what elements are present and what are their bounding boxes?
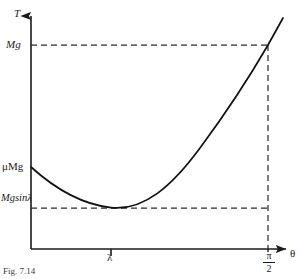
x-tick-label-lambda: λ [107, 252, 112, 263]
fraction-denominator: 2 [262, 264, 276, 275]
y-axis-label: T [14, 8, 20, 19]
figure-caption: Fig. 7.14 [3, 266, 35, 276]
tension-angle-plot [0, 0, 303, 279]
x-axis-label: θ [290, 248, 295, 259]
y-tick-label-mg-sin-lambda: Mgsinλ [1, 193, 32, 204]
physics-figure: T θ Mg μMg Mgsinλ λ π 2 Fig. 7.14 [0, 0, 303, 279]
y-tick-label-mu-mg: μMg [2, 161, 23, 172]
tension-curve [31, 18, 283, 208]
fraction-numerator: π [262, 251, 276, 262]
y-tick-label-mg: Mg [6, 39, 21, 50]
x-tick-label-pi-over-two: π 2 [262, 251, 276, 274]
